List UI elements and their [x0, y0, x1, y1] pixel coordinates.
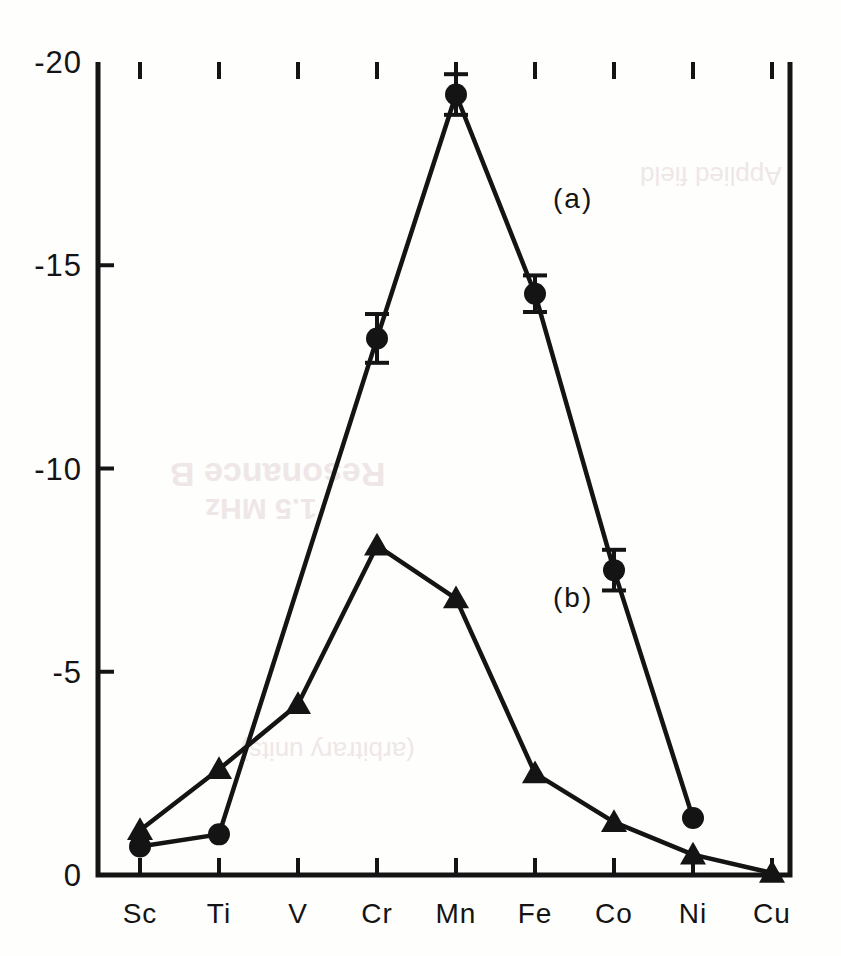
- curve-annotations: (a)(b): [553, 183, 593, 612]
- data-point-circle: [445, 84, 467, 106]
- y-tick-label: -20: [34, 45, 82, 80]
- y-tick-label: -15: [34, 248, 82, 283]
- data-point-triangle: [443, 586, 469, 609]
- data-point-triangle: [601, 809, 627, 832]
- y-axis-tick-labels: -20-15-10-50: [34, 45, 82, 893]
- x-axis-tick-labels: ScTiVCrMnFeCoNiCu: [123, 898, 791, 929]
- x-tick-label: Ti: [207, 898, 231, 929]
- x-tick-label: Fe: [518, 898, 553, 929]
- data-line: [140, 95, 693, 847]
- series-a-circles: [129, 74, 704, 857]
- data-point-circle: [524, 283, 546, 305]
- data-point-triangle: [522, 760, 548, 783]
- x-tick-label: Cr: [361, 898, 393, 929]
- figure-canvas: Resonance B 1.5 MHz (arbitrary units) Ap…: [0, 0, 841, 956]
- x-tick-label: Mn: [436, 898, 477, 929]
- data-point-triangle: [285, 691, 311, 714]
- x-axis-ticks: [140, 62, 772, 875]
- x-tick-label: Co: [595, 898, 633, 929]
- x-tick-label: Cu: [753, 898, 791, 929]
- x-tick-label: Ni: [679, 898, 707, 929]
- x-tick-label: Sc: [123, 898, 158, 929]
- axis-frame: [98, 62, 790, 875]
- y-tick-label: 0: [64, 858, 82, 893]
- x-tick-label: V: [288, 898, 308, 929]
- data-point-circle: [366, 327, 388, 349]
- curve-label: (b): [553, 582, 593, 613]
- data-point-circle: [208, 823, 230, 845]
- data-point-circle: [603, 559, 625, 581]
- curve-label: (a): [553, 183, 593, 214]
- y-tick-label: -10: [34, 452, 82, 487]
- y-tick-label: -5: [52, 655, 82, 690]
- line-chart: -20-15-10-50 ScTiVCrMnFeCoNiCu (a)(b): [0, 0, 841, 956]
- data-point-circle: [682, 807, 704, 829]
- data-point-triangle: [364, 533, 390, 556]
